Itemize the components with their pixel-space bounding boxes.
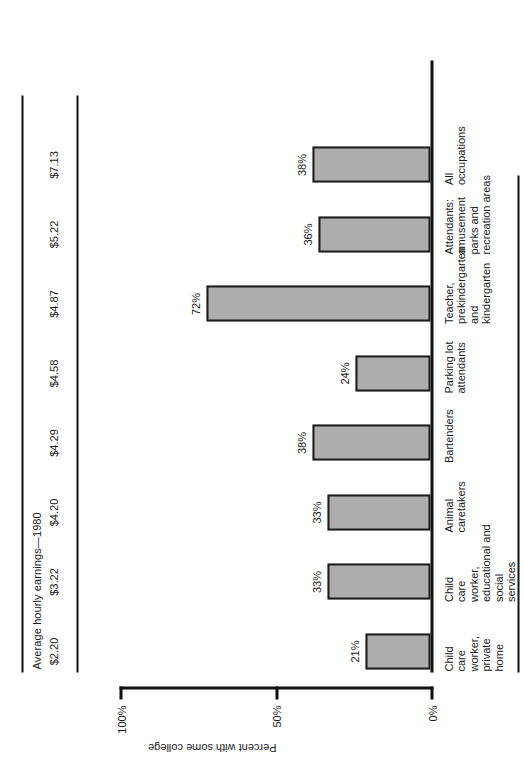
bar-value-label: 24% xyxy=(338,362,350,384)
value-axis-tick: 50% xyxy=(275,686,278,699)
rotated-figure: Average hourly earnings—1980 $2.20$3.22$… xyxy=(0,0,524,767)
earnings-value: $4.58 xyxy=(47,359,59,387)
earnings-band: Average hourly earnings—1980 $2.20$3.22$… xyxy=(0,0,90,767)
bar-value-label: 38% xyxy=(295,431,307,453)
bar xyxy=(365,633,430,669)
chart-page: Average hourly earnings—1980 $2.20$3.22$… xyxy=(0,0,524,767)
earnings-value: $4.87 xyxy=(47,290,59,318)
earnings-value: $5.22 xyxy=(47,220,59,248)
value-axis-tick-label: 0% xyxy=(426,705,438,721)
bar xyxy=(355,355,430,391)
earnings-band-title: Average hourly earnings—1980 xyxy=(30,512,42,669)
bar xyxy=(327,564,430,600)
earnings-value: $4.20 xyxy=(47,498,59,526)
category-separator-rule xyxy=(517,175,519,672)
bar-value-label: 38% xyxy=(295,153,307,175)
earnings-value: $3.22 xyxy=(47,568,59,596)
value-axis-tick: 0% xyxy=(430,686,433,699)
earnings-value: $2.20 xyxy=(47,637,59,665)
value-axis-title: Percent with some college xyxy=(148,741,276,753)
bar-value-label: 33% xyxy=(310,501,322,523)
category-label: Child care worker, educational and socia… xyxy=(442,524,516,602)
value-axis-tick-label: 100% xyxy=(115,705,127,733)
earnings-value: $4.29 xyxy=(47,429,59,457)
earnings-band-bottom-rule xyxy=(76,95,78,672)
category-label: Bartenders xyxy=(442,409,454,463)
bar xyxy=(206,286,430,322)
bar xyxy=(327,494,430,530)
bar-value-label: 33% xyxy=(310,570,322,592)
value-axis-tick-label: 50% xyxy=(270,705,282,727)
earnings-band-top-rule xyxy=(21,95,23,672)
category-label: Attendants: amusement parks and recreati… xyxy=(442,175,492,255)
category-label: Teacher, prekindergarten and kindergarte… xyxy=(442,246,492,323)
category-label: Parking lot attendants xyxy=(442,341,467,393)
value-axis-tick: 100% xyxy=(119,686,122,699)
category-label: Animal caretakers xyxy=(442,481,467,532)
bar-value-label: 36% xyxy=(301,223,313,245)
plot-area: 0%50%100% Percent with some college 21%3… xyxy=(90,0,524,767)
bar xyxy=(312,147,430,183)
category-label: All occupations xyxy=(442,126,467,185)
earnings-value: $7.13 xyxy=(47,151,59,179)
bar-value-label: 21% xyxy=(348,640,360,662)
bar xyxy=(312,425,430,461)
bar xyxy=(318,216,430,252)
category-label: Child care worker, private home xyxy=(442,636,504,671)
bar-value-label: 72% xyxy=(189,292,201,314)
